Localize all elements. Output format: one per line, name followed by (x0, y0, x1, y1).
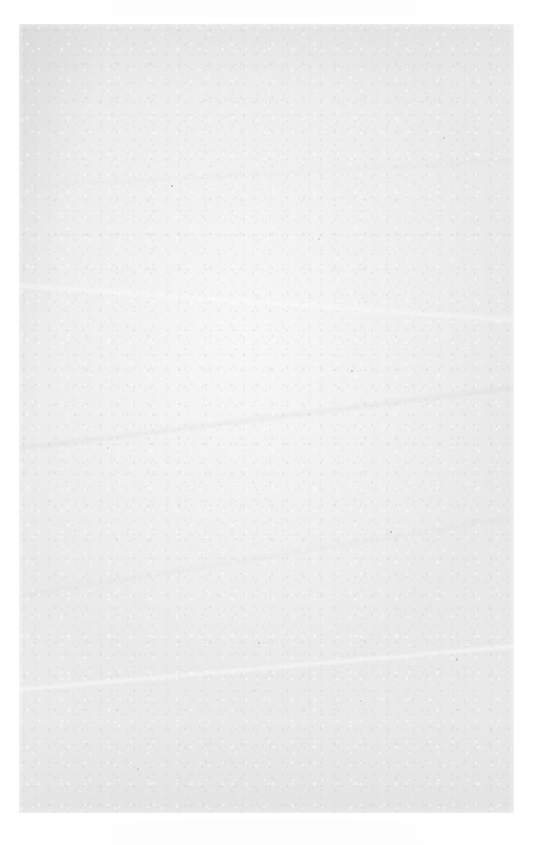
page-content-area: No printed text, figures, rules, page nu… (63, 76, 470, 761)
paper-sheet: No printed text, figures, rules, page nu… (19, 24, 514, 813)
paper-speck (137, 768, 139, 770)
blank-page-note: No printed text, figures, rules, page nu… (63, 76, 64, 77)
scanned-page-canvas: No printed text, figures, rules, page nu… (0, 0, 533, 845)
